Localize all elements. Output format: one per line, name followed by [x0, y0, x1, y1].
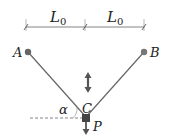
- node-a: [25, 49, 31, 55]
- bar-bc: [86, 52, 144, 117]
- angle-arc: [73, 107, 77, 118]
- angle-alpha-label: α: [59, 102, 68, 117]
- load-p-label: P: [92, 119, 102, 134]
- label-a: A: [12, 45, 22, 60]
- dimension-left-label: L0: [49, 8, 66, 27]
- label-b: B: [149, 45, 160, 60]
- dimension-right-label: L0: [106, 8, 123, 27]
- node-b: [141, 49, 147, 55]
- load-arrow-icon: [83, 122, 90, 135]
- mass-block: [82, 114, 90, 122]
- dimension-line: [24, 19, 146, 31]
- vertical-motion-arrow-icon: [85, 72, 92, 93]
- label-c: C: [82, 101, 92, 116]
- truss-diagram: L0 L0 A B C α P: [0, 0, 169, 140]
